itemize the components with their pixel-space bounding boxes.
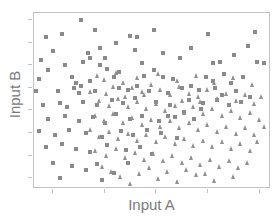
data-point-square [128, 34, 132, 38]
data-point-square [232, 53, 236, 57]
data-point-triangle [158, 124, 162, 129]
data-point-square [197, 88, 201, 92]
data-point-triangle [118, 174, 122, 179]
data-point-triangle [158, 87, 162, 92]
data-point-triangle [126, 131, 130, 136]
data-point-triangle [135, 99, 139, 104]
data-point-triangle [189, 155, 193, 160]
data-point-triangle [151, 151, 155, 156]
data-point-square [58, 176, 62, 180]
data-point-triangle [140, 122, 144, 127]
data-point-triangle [203, 171, 207, 176]
data-point-square [140, 61, 144, 65]
data-point-square [39, 58, 43, 62]
data-point-square [84, 168, 88, 172]
data-point-square [133, 48, 137, 52]
data-point-square [187, 98, 191, 102]
data-point-triangle [236, 165, 240, 170]
data-point-triangle [243, 92, 247, 97]
data-point-square [93, 89, 97, 93]
data-point-square [124, 148, 128, 152]
data-point-square [81, 60, 85, 64]
data-point-square [140, 114, 144, 118]
data-point-square [110, 98, 114, 102]
data-point-square [147, 89, 151, 93]
data-point-triangle [121, 80, 125, 85]
data-point-triangle [97, 134, 101, 139]
data-point-square [46, 117, 50, 121]
x-tick [207, 189, 208, 193]
data-point-triangle [149, 82, 153, 87]
data-point-triangle [114, 146, 118, 151]
data-point-square [166, 114, 170, 118]
data-point-square [34, 89, 38, 93]
data-point-square [135, 84, 139, 88]
data-point-triangle [231, 174, 235, 179]
y-tick [28, 42, 32, 43]
data-point-triangle [182, 110, 186, 115]
data-point-triangle [177, 84, 181, 89]
data-point-triangle [93, 148, 97, 153]
data-point-triangle [154, 101, 158, 106]
data-point-triangle [224, 91, 228, 96]
data-point-triangle [180, 98, 184, 103]
data-point-triangle [97, 98, 101, 103]
data-point-triangle [88, 89, 92, 94]
data-point-square [44, 145, 48, 149]
y-tick [28, 19, 32, 20]
data-point-triangle [248, 148, 252, 153]
data-point-triangle [161, 158, 165, 163]
y-tick [28, 155, 32, 156]
data-point-square [100, 178, 104, 182]
data-point-triangle [168, 92, 172, 97]
data-point-triangle [149, 117, 153, 122]
data-point-triangle [217, 164, 221, 169]
data-point-triangle [252, 132, 256, 137]
data-point-triangle [135, 75, 139, 80]
data-point-triangle [111, 111, 115, 116]
data-point-triangle [220, 113, 224, 118]
x-tick [155, 189, 156, 193]
y-axis-label-text: Input B [7, 70, 24, 118]
data-point-square [145, 128, 149, 132]
data-point-triangle [123, 94, 127, 99]
data-point-square [74, 81, 78, 85]
data-point-triangle [187, 120, 191, 125]
data-point-square [142, 74, 146, 78]
data-point-triangle [205, 87, 209, 92]
data-point-square [53, 133, 57, 137]
data-point-square [114, 41, 118, 45]
data-point-triangle [259, 94, 263, 99]
data-point-triangle [102, 77, 106, 82]
data-point-triangle [142, 92, 146, 97]
data-point-square [206, 32, 210, 36]
data-point-square [77, 91, 81, 95]
data-point-triangle [220, 139, 224, 144]
data-point-triangle [198, 99, 202, 104]
data-point-triangle [154, 139, 158, 144]
data-point-triangle [116, 96, 120, 101]
data-point-square [173, 115, 177, 119]
data-point-triangle [238, 115, 242, 120]
data-point-square [77, 119, 81, 123]
data-point-square [56, 89, 60, 93]
data-point-triangle [234, 131, 238, 136]
data-point-square [253, 30, 257, 34]
data-point-triangle [227, 158, 231, 163]
data-point-triangle [170, 153, 174, 158]
data-point-square [46, 68, 50, 72]
data-point-triangle [194, 172, 198, 177]
data-point-triangle [205, 122, 209, 127]
data-point-triangle [262, 124, 266, 129]
data-point-square [161, 51, 165, 55]
y-tick [28, 87, 32, 88]
data-point-triangle [173, 141, 177, 146]
data-point-square [72, 86, 76, 90]
y-tick [28, 109, 32, 110]
data-point-triangle [187, 91, 191, 96]
data-point-square [222, 72, 226, 76]
data-point-triangle [107, 129, 111, 134]
data-point-square [157, 119, 161, 123]
data-point-square [88, 56, 92, 60]
data-point-square [229, 81, 233, 85]
